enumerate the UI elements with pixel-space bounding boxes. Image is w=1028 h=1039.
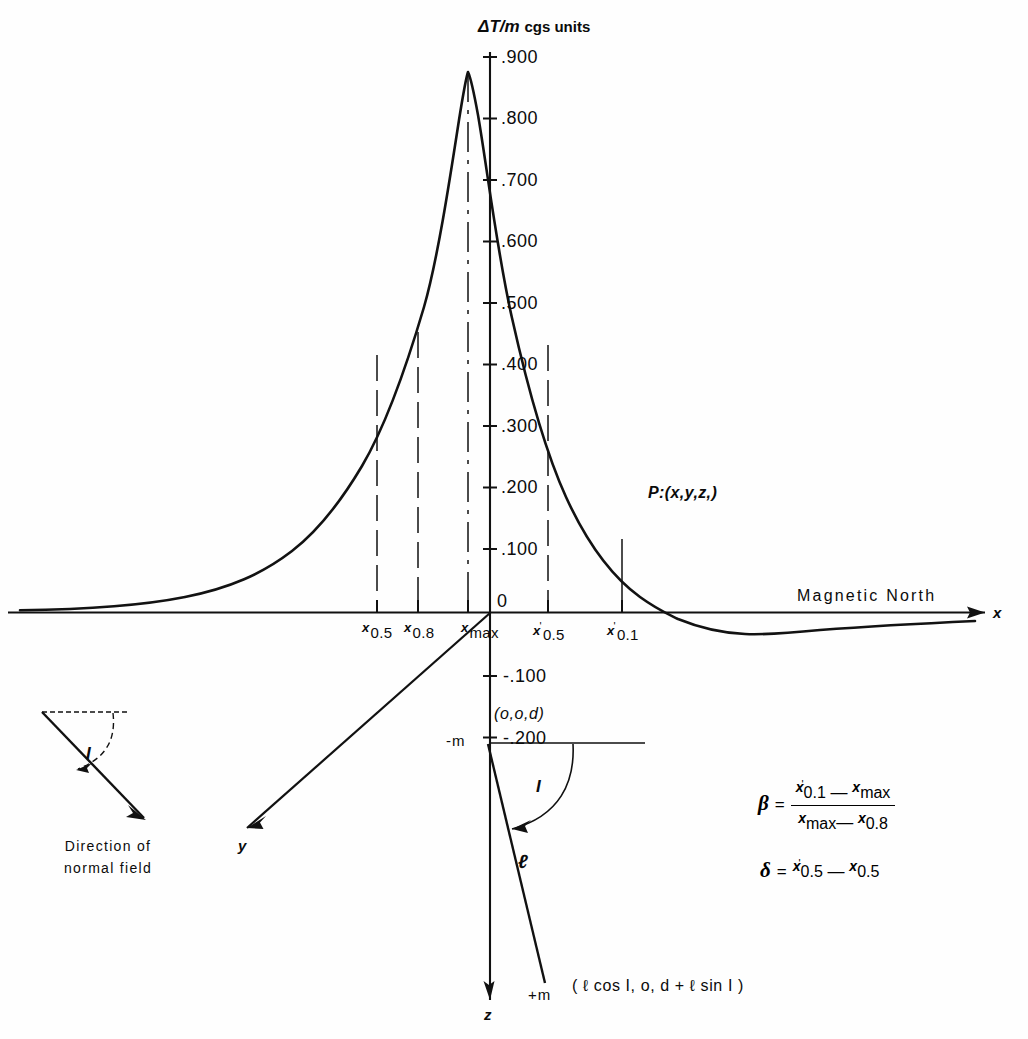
dipole-origin-coords: (o,o,d) xyxy=(494,706,544,722)
y-tick-label-neg100: -.100 xyxy=(503,667,547,685)
delta-symbol: δ xyxy=(760,858,771,882)
y-tick-label-200: .200 xyxy=(501,478,538,496)
delta-right-term: x0.5 xyxy=(849,863,879,880)
y-axis-title: ΔT/m cgs units xyxy=(478,18,590,35)
y-tick-label-100: .100 xyxy=(501,540,538,558)
y-tick-label-600: .600 xyxy=(501,232,538,250)
inclination-angle-arc xyxy=(512,744,573,833)
anomaly-curve xyxy=(20,72,975,634)
negative-pole-label: -m xyxy=(446,733,466,748)
beta-equals: = xyxy=(769,795,791,814)
delta-minus: — xyxy=(828,862,845,881)
normal-field-inset xyxy=(42,712,146,820)
y-tick-label-500: .500 xyxy=(501,294,538,312)
x-tick-label-x05-prime: x'0.5 xyxy=(533,621,565,642)
y-axis-oblique xyxy=(247,613,490,829)
inclination-angle-label: I xyxy=(536,778,541,795)
y-tick-label-zero: 0 xyxy=(497,592,507,610)
y-axis-letter: y xyxy=(238,838,246,853)
beta-symbol: β xyxy=(758,791,769,815)
x-tick-label-xmax: xmax xyxy=(461,621,499,640)
x-tick-label-x08: x0.8 xyxy=(404,621,434,640)
x-tick-label-x01-prime: x'0.1 xyxy=(607,621,639,642)
y-tick-label-700: .700 xyxy=(501,171,538,189)
z-axis-letter: z xyxy=(484,1007,492,1022)
positive-pole-coords: ( ℓ cos I, o, d + ℓ sin I ) xyxy=(572,978,744,994)
inset-caption: Direction of normal field xyxy=(28,836,188,879)
y-tick-label-neg200: -.200 xyxy=(503,729,547,747)
inset-caption-line1: Direction of xyxy=(28,836,188,858)
beta-formula: β= x'0.1 — xmax xmax— x0.8 xyxy=(758,778,895,834)
magnetic-north-label: Magnetic North xyxy=(797,588,936,604)
y-tick-label-400: .400 xyxy=(501,355,538,373)
y-tick-label-900: .900 xyxy=(501,48,538,66)
x-tick-label-x05: x0.5 xyxy=(362,621,392,640)
delta-left-term: x'0.5 xyxy=(793,863,823,880)
y-tick-label-300: .300 xyxy=(501,417,538,435)
delta-formula: δ=x'0.5 — x0.5 xyxy=(760,857,879,883)
x-axis-letter: x xyxy=(993,605,1001,620)
magnetic-anomaly-figure: +m line ---------- --> ΔT/m cgs uni xyxy=(0,0,1028,1039)
inset-caption-line2: normal field xyxy=(28,858,188,880)
beta-denominator: xmax— x0.8 xyxy=(791,806,896,833)
y-tick-label-800: .800 xyxy=(501,109,538,127)
observation-point-label: P:(x,y,z,) xyxy=(648,485,717,501)
dipole-length-label: ℓ xyxy=(518,852,528,871)
positive-pole-label: +m xyxy=(528,987,551,1002)
delta-equals: = xyxy=(771,862,793,881)
beta-numerator: x'0.1 — xmax xyxy=(791,778,896,806)
inset-inclination-angle-label: I xyxy=(86,745,91,762)
